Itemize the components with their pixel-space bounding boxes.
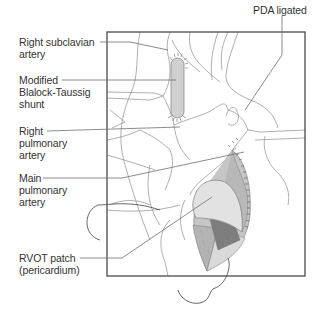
- label-pda-ligated: PDA ligated: [253, 4, 307, 16]
- label-modified-blalock-taussig-shunt: Modified Blalock-Taussig shunt: [19, 74, 90, 110]
- label-rvot-patch: RVOT patch (pericardium): [19, 252, 80, 276]
- blalock-taussig-shunt-graphic: [168, 53, 188, 122]
- label-right-subclavian-artery: Right subclavian artery: [19, 36, 94, 60]
- label-right-pulmonary-artery: Right pulmonary artery: [19, 125, 67, 161]
- label-main-pulmonary-artery: Main pulmonary artery: [19, 172, 67, 208]
